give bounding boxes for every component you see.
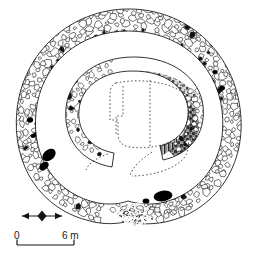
scale-bar-start-label: 0 [14,230,20,241]
site-plan-figure [0,0,257,261]
scale-bar-end-label: 6 m [62,230,79,241]
